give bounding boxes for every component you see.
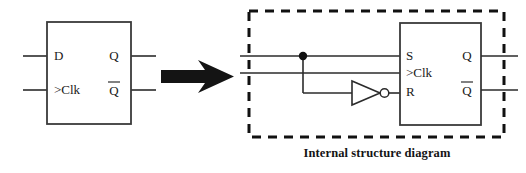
pin-label-d: D [54,48,63,63]
inverter-bubble-icon [380,89,389,98]
pin-label-r: R [406,84,415,99]
pin-label-clk-internal: >Clk [406,65,433,80]
sr-flip-flop-internal: S >Clk R Q Q [240,11,518,137]
pin-label-q-bar-internal: Q [462,83,472,98]
wire-junction-dot [299,52,307,60]
inverter-triangle-icon [352,81,380,105]
pin-label-s: S [406,48,413,63]
pin-label-q-bar: Q [109,83,119,98]
pin-label-q: Q [109,48,119,63]
figure-caption: Internal structure diagram [249,146,505,161]
pin-label-q-internal: Q [462,48,472,63]
equivalence-arrow [161,60,234,93]
d-flip-flop-symbol: D >Clk Q Q [23,22,156,124]
arrow-right-icon [161,60,234,93]
pin-label-clk: >Clk [54,82,81,97]
figure-container: D >Clk Q Q [0,0,526,173]
symbol-body-rect [47,22,131,124]
